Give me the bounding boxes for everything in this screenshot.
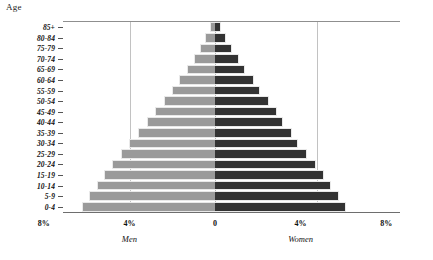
y-axis-label-10-14: 10-14 — [37, 181, 55, 190]
y-axis-label-5-9: 5-9 — [45, 192, 55, 201]
y-axis-label-65-69: 65-69 — [37, 65, 55, 74]
group-label-women: Women — [288, 234, 313, 244]
y-axis-tick — [58, 133, 63, 134]
bar-women-35-39 — [215, 128, 292, 138]
y-axis-label-60-64: 60-64 — [37, 75, 55, 84]
x-axis-tick-label-0: 8% — [38, 219, 50, 228]
plot-area: 0-45-910-1415-1920-2425-2930-3435-3940-4… — [63, 21, 400, 213]
y-axis-label-80-84: 80-84 — [37, 33, 55, 42]
bar-men-5-9 — [89, 191, 215, 201]
bar-women-5-9 — [215, 191, 339, 201]
bar-rows: 0-45-910-1415-1920-2425-2930-3435-3940-4… — [63, 22, 400, 212]
bar-row: 60-64 — [63, 75, 400, 86]
bar-women-15-19 — [215, 170, 324, 180]
bar-men-75-79 — [200, 44, 215, 54]
y-axis-label-85+: 85+ — [43, 23, 55, 32]
y-axis-tick — [58, 143, 63, 144]
y-axis-label-35-39: 35-39 — [37, 128, 55, 137]
bar-row: 40-44 — [63, 117, 400, 128]
y-axis-label-20-24: 20-24 — [37, 160, 55, 169]
x-axis-tick-label-3: 4% — [295, 219, 307, 228]
y-axis-tick — [58, 175, 63, 176]
y-axis-label-55-59: 55-59 — [37, 86, 55, 95]
bar-men-80-84 — [205, 33, 215, 43]
y-axis-tick — [58, 59, 63, 60]
bar-men-15-19 — [104, 170, 215, 180]
y-axis-label-30-34: 30-34 — [37, 139, 55, 148]
y-axis-tick — [58, 122, 63, 123]
y-axis-tick — [58, 112, 63, 113]
bar-women-10-14 — [215, 181, 331, 191]
bar-women-25-29 — [215, 149, 307, 159]
y-axis-label-75-79: 75-79 — [37, 44, 55, 53]
y-axis-label-25-29: 25-29 — [37, 149, 55, 158]
y-axis-tick — [58, 69, 63, 70]
bar-men-10-14 — [97, 181, 215, 191]
bar-men-60-64 — [179, 75, 215, 85]
bar-women-65-69 — [215, 65, 245, 75]
y-axis-tick — [58, 186, 63, 187]
bar-row: 75-79 — [63, 43, 400, 54]
bar-women-55-59 — [215, 86, 260, 96]
x-axis-tick-label-4: 8% — [380, 219, 392, 228]
y-axis-tick — [58, 27, 63, 28]
bar-women-40-44 — [215, 117, 283, 127]
bar-women-75-79 — [215, 44, 232, 54]
y-axis-tick — [58, 154, 63, 155]
bar-men-35-39 — [138, 128, 215, 138]
bar-women-0-4 — [215, 202, 346, 212]
bar-women-80-84 — [215, 33, 226, 43]
y-axis-label-70-74: 70-74 — [37, 54, 55, 63]
y-axis-label-40-44: 40-44 — [37, 118, 55, 127]
y-axis-title: Age — [6, 2, 22, 12]
y-axis-tick — [58, 101, 63, 102]
bar-row: 45-49 — [63, 106, 400, 117]
bar-women-30-34 — [215, 139, 298, 149]
y-axis-tick — [58, 207, 63, 208]
bar-row: 20-24 — [63, 159, 400, 170]
y-axis-label-0-4: 0-4 — [45, 202, 55, 211]
bar-row: 85+ — [63, 22, 400, 33]
bar-row: 70-74 — [63, 54, 400, 65]
bar-row: 15-19 — [63, 170, 400, 181]
y-axis-label-50-54: 50-54 — [37, 97, 55, 106]
bar-women-85+ — [215, 22, 221, 32]
bar-row: 65-69 — [63, 64, 400, 75]
bar-row: 0-4 — [63, 201, 400, 212]
population-pyramid-chart: Age 0-45-910-1415-1920-2425-2930-3435-39… — [0, 0, 433, 260]
group-label-men: Men — [122, 234, 137, 244]
bar-women-50-54 — [215, 96, 269, 106]
y-axis-tick — [58, 38, 63, 39]
bar-women-70-74 — [215, 54, 239, 64]
x-axis-tick-label-2: 0 — [213, 219, 217, 228]
bar-men-30-34 — [129, 139, 215, 149]
bar-men-50-54 — [164, 96, 215, 106]
bar-men-45-49 — [155, 107, 215, 117]
y-axis-label-15-19: 15-19 — [37, 171, 55, 180]
y-axis-label-45-49: 45-49 — [37, 107, 55, 116]
bar-row: 25-29 — [63, 149, 400, 160]
bar-women-20-24 — [215, 160, 316, 170]
bar-row: 55-59 — [63, 85, 400, 96]
bar-row: 5-9 — [63, 191, 400, 202]
bar-women-60-64 — [215, 75, 254, 85]
y-axis-tick — [58, 48, 63, 49]
bar-row: 50-54 — [63, 96, 400, 107]
bar-men-20-24 — [112, 160, 215, 170]
y-axis-tick — [58, 196, 63, 197]
bar-row: 10-14 — [63, 180, 400, 191]
bar-men-65-69 — [187, 65, 215, 75]
bar-men-25-29 — [121, 149, 215, 159]
bar-row: 35-39 — [63, 128, 400, 139]
bar-men-55-59 — [172, 86, 215, 96]
y-axis-tick — [58, 80, 63, 81]
x-axis-tick-label-1: 4% — [123, 219, 135, 228]
bar-men-0-4 — [82, 202, 215, 212]
bar-row: 80-84 — [63, 32, 400, 43]
bar-row: 30-34 — [63, 138, 400, 149]
bar-women-45-49 — [215, 107, 277, 117]
bar-men-40-44 — [147, 117, 215, 127]
y-axis-tick — [58, 91, 63, 92]
y-axis-tick — [58, 164, 63, 165]
bar-men-70-74 — [194, 54, 215, 64]
